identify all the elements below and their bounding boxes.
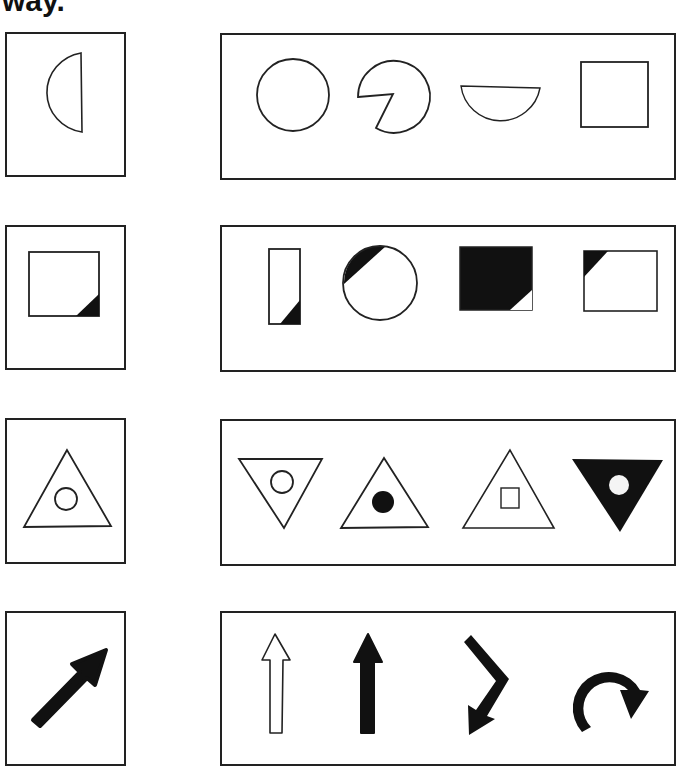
row-4-options <box>0 0 678 768</box>
outline-arrow-up-icon <box>262 634 290 733</box>
bent-arrow-icon <box>464 635 509 735</box>
black-arrow-up-icon <box>354 634 382 733</box>
option-4-4[interactable] <box>573 672 649 732</box>
option-4-2[interactable] <box>354 634 382 733</box>
option-4-3[interactable] <box>464 635 509 735</box>
u-turn-arrow-icon <box>573 672 649 732</box>
option-4-1[interactable] <box>262 634 290 733</box>
